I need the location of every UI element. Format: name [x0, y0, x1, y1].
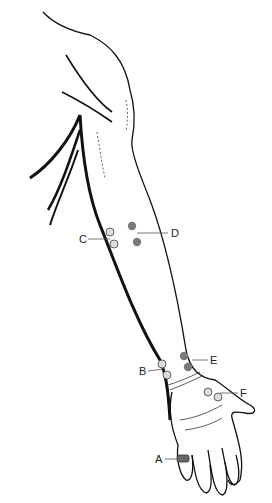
point-a-ring	[177, 455, 189, 462]
arm-drawing	[0, 0, 272, 503]
armpit-stroke	[30, 115, 80, 178]
shoulder-crease	[66, 55, 112, 112]
hand-outline	[170, 392, 192, 480]
label-b: B	[139, 366, 146, 377]
point-b2	[163, 371, 171, 379]
palm-crease	[185, 418, 222, 430]
muscle-shading	[126, 100, 128, 132]
point-f2	[214, 393, 222, 401]
label-a: A	[155, 454, 162, 465]
point-d2	[133, 238, 141, 246]
point-b1	[158, 360, 166, 368]
finger	[192, 455, 211, 493]
label-d: D	[171, 228, 179, 239]
point-c2	[110, 240, 118, 248]
arm-underside-contour	[80, 115, 170, 420]
arm-diagram: A B C D E F	[0, 0, 272, 503]
muscle-shading	[97, 132, 105, 178]
point-e1	[180, 352, 188, 360]
finger	[222, 448, 239, 485]
label-c: C	[79, 234, 87, 245]
wrist-crease	[168, 372, 200, 385]
leader-b	[148, 369, 164, 371]
point-d1	[128, 222, 136, 230]
point-e2	[184, 363, 192, 371]
label-e: E	[210, 355, 217, 366]
point-f1	[204, 388, 212, 396]
shoulder-crease	[62, 92, 112, 122]
point-c1	[106, 228, 114, 236]
palm-crease	[180, 405, 222, 420]
armpit-stroke	[50, 150, 78, 225]
label-f: F	[240, 388, 247, 399]
arm-outline	[43, 12, 255, 485]
